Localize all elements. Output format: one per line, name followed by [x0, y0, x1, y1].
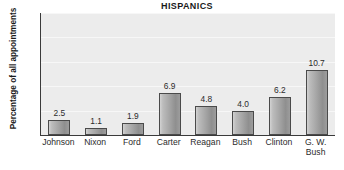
bar-chart: HISPANICS Percentage of all appointments… — [0, 0, 344, 170]
bar-slot: 1.1 — [78, 13, 115, 135]
x-tick-label: Nixon — [77, 137, 114, 147]
chart-title: HISPANICS — [40, 1, 334, 11]
bar[interactable] — [122, 123, 144, 135]
x-tick-label-line: Nixon — [77, 137, 114, 147]
x-tick-label-line: Ford — [114, 137, 151, 147]
x-tick-label: Carter — [150, 137, 187, 147]
x-tick-label: G. W.Bush — [297, 137, 334, 157]
y-axis-title: Percentage of all appointments — [9, 5, 18, 133]
x-tick-label: Clinton — [261, 137, 298, 147]
x-tick-label-line: G. W. — [297, 137, 334, 147]
x-axis-ticks: JohnsonNixonFordCarterReaganBushClintonG… — [40, 137, 334, 167]
bars-layer: 2.51.11.96.94.84.06.210.7 — [41, 13, 335, 135]
x-tick-label: Johnson — [40, 137, 77, 147]
x-tick-label-line: Reagan — [187, 137, 224, 147]
bar-value-label: 1.9 — [127, 111, 139, 121]
x-tick-label: Reagan — [187, 137, 224, 147]
bar[interactable] — [159, 93, 181, 135]
bar[interactable] — [306, 70, 328, 135]
bar-value-label: 4.0 — [237, 99, 249, 109]
x-tick-label-line: Carter — [150, 137, 187, 147]
x-tick-label-line: Clinton — [261, 137, 298, 147]
plot-area: 2.51.11.96.94.84.06.210.7 — [40, 13, 335, 136]
bar-slot: 4.8 — [188, 13, 225, 135]
x-tick-label-line: Johnson — [40, 137, 77, 147]
bar-value-label: 6.2 — [274, 85, 286, 95]
x-tick-label: Ford — [114, 137, 151, 147]
bar-value-label: 4.8 — [201, 94, 213, 104]
bar-slot: 4.0 — [225, 13, 262, 135]
bar[interactable] — [48, 120, 70, 135]
bar-slot: 6.2 — [262, 13, 299, 135]
bar-slot: 1.9 — [115, 13, 152, 135]
bar-slot: 10.7 — [298, 13, 335, 135]
x-tick-label-line: Bush — [224, 137, 261, 147]
bar-value-label: 10.7 — [308, 58, 324, 68]
x-tick-label-line: Bush — [297, 147, 334, 157]
x-tick-label: Bush — [224, 137, 261, 147]
bar-slot: 2.5 — [41, 13, 78, 135]
bar[interactable] — [85, 128, 107, 135]
bar-value-label: 2.5 — [54, 108, 66, 118]
bar-slot: 6.9 — [151, 13, 188, 135]
bar-value-label: 1.1 — [90, 116, 102, 126]
bar[interactable] — [195, 106, 217, 135]
bar[interactable] — [269, 97, 291, 135]
bar[interactable] — [232, 111, 254, 135]
bar-value-label: 6.9 — [164, 81, 176, 91]
